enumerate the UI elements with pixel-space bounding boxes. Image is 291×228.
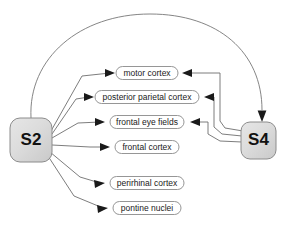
edge-s2-frontal-cortex [52, 145, 105, 147]
arrowhead-s2-frontal-eye-fields [95, 118, 105, 126]
edge-s2-frontal-eye-fields [52, 122, 100, 138]
region-box-label: frontal eye fields [116, 117, 178, 127]
region-box-frontal-eye-fields[interactable]: frontal eye fields [110, 116, 184, 129]
region-box-posterior-parietal-cortex[interactable]: posterior parietal cortex [95, 91, 199, 104]
region-box-motor-cortex[interactable]: motor cortex [116, 67, 178, 80]
region-box-frontal-cortex[interactable]: frontal cortex [115, 141, 179, 154]
edge-s2-perirhinal-cortex [50, 152, 100, 183]
arrowhead-s4-posterior-parietal-cortex [204, 93, 214, 101]
edges-from-s4 [182, 69, 243, 142]
region-box-label: pontine nuclei [121, 203, 174, 213]
arrowhead-s4-motor-cortex [182, 69, 192, 77]
arrowhead-s4-frontal-eye-fields [190, 118, 200, 126]
node-s2-label: S2 [21, 130, 42, 149]
edge-s4-frontal-eye-fields [195, 122, 242, 142]
node-s4[interactable]: S4 [241, 122, 276, 159]
edge-s2-posterior-parietal-cortex [52, 97, 89, 134]
region-box-label: perirhinal cortex [117, 178, 178, 188]
node-s4-label: S4 [248, 130, 269, 149]
region-box-pontine-nuclei[interactable]: pontine nuclei [113, 202, 181, 215]
node-s2[interactable]: S2 [10, 118, 52, 162]
arrowhead-s2-posterior-parietal-cortex [84, 93, 94, 101]
region-box-perirhinal-cortex[interactable]: perirhinal cortex [110, 177, 184, 190]
region-box-label: motor cortex [123, 68, 171, 78]
arrowhead-s2-motor-cortex [105, 69, 115, 77]
region-box-label: frontal cortex [122, 142, 172, 152]
diagram-canvas: motor cortex posterior parietal cortex f… [0, 0, 291, 228]
arrowhead-s2-pontine-nuclei [97, 205, 108, 213]
region-box-label: posterior parietal cortex [103, 92, 193, 102]
arrowhead-s2-perirhinal-cortex [94, 180, 105, 188]
diagram-svg: motor cortex posterior parietal cortex f… [0, 0, 291, 228]
arrowhead-into-s4-top [258, 111, 267, 123]
arrowhead-s2-frontal-cortex [100, 143, 110, 151]
